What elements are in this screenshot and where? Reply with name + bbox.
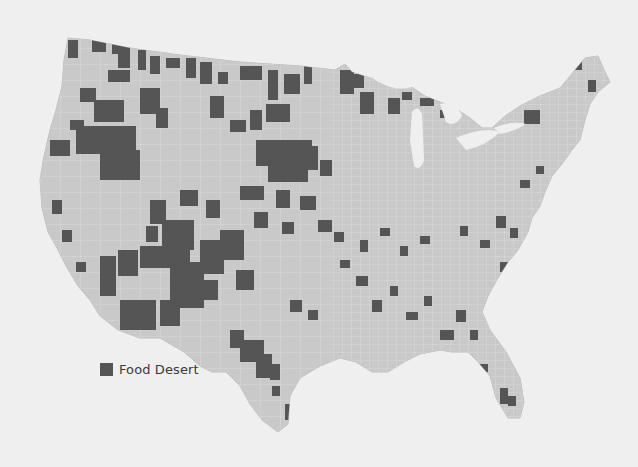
land-area <box>0 0 638 467</box>
food-desert-swatch <box>100 363 113 376</box>
map-legend: Food Desert <box>100 362 199 377</box>
legend-label-food-desert: Food Desert <box>119 362 199 377</box>
us-food-desert-map <box>0 0 638 467</box>
